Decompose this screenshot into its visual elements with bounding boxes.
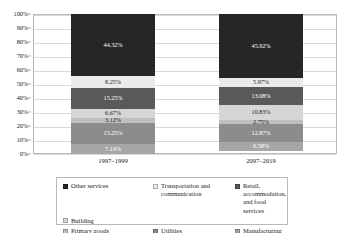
legend-swatch-icon — [153, 229, 158, 233]
y-axis-tick-mark — [28, 140, 31, 141]
bar-segment: 8.25% — [71, 76, 155, 88]
bar-segment-value-label: 15.25% — [104, 130, 123, 136]
y-axis-tick-label: 50% — [17, 81, 28, 87]
legend-swatch-icon — [63, 184, 68, 189]
bar-segment-value-label: 5.97% — [253, 79, 269, 85]
bar-segment: 15.25% — [71, 123, 155, 144]
bar-segment: 44.32% — [71, 14, 155, 76]
x-axis-label-1: 2097–2019 — [219, 156, 303, 165]
y-axis-tick-mark — [28, 28, 31, 29]
legend-item-label: Retail, accommodation, and food services — [243, 182, 286, 215]
y-axis-tick-label: 70% — [17, 53, 28, 59]
bar-segment-value-label: 45.92% — [252, 43, 271, 49]
gridline — [34, 154, 336, 155]
y-axis-tick-label: 100% — [14, 11, 28, 17]
legend-spacer — [153, 217, 233, 225]
legend-item[interactable]: Building — [63, 217, 151, 225]
y-axis-tick-mark — [28, 56, 31, 57]
x-axis-label-0: 1997–1999 — [71, 156, 155, 165]
bar-segment-value-label: 6.58% — [253, 143, 269, 149]
bar-segment-value-label: 15.25% — [104, 95, 123, 101]
y-axis-tick-label: 60% — [17, 67, 28, 73]
x-axis-labels: 1997–1999 2097–2019 — [33, 156, 337, 170]
legend-item[interactable]: Primary goods — [63, 227, 151, 233]
bar-segment: 45.92% — [219, 14, 303, 78]
legend-item[interactable]: Manufacturing — [235, 227, 286, 233]
legend-item[interactable]: Retail, accommodation, and food services — [235, 182, 286, 215]
y-axis-tick-label: 30% — [17, 109, 28, 115]
bar-segment-value-label: 10.83% — [252, 109, 271, 115]
bar-segment-value-label: 12.87% — [252, 130, 271, 136]
bar-segment: 12.87% — [219, 124, 303, 142]
legend-item[interactable]: Transportation and communication — [153, 182, 233, 215]
legend-item[interactable]: Other services — [63, 182, 151, 215]
bar-segment-value-label: 8.25% — [105, 79, 121, 85]
bar-group: 44.32%8.25%15.25%6.67%3.12%15.25%7.14% — [71, 14, 155, 154]
bar-segment-value-label: 7.14% — [105, 146, 121, 152]
legend-item[interactable]: Utilities — [153, 227, 233, 233]
y-axis-tick-label: 0% — [20, 151, 28, 157]
y-axis-tick-label: 40% — [17, 95, 28, 101]
bars-layer: 44.32%8.25%15.25%6.67%3.12%15.25%7.14%45… — [33, 14, 337, 154]
y-axis-tick-mark — [28, 126, 31, 127]
y-axis: 0%10%20%30%40%50%60%70%80%90%100% — [0, 14, 31, 154]
legend-item-label: Manufacturing — [243, 227, 282, 233]
y-axis-tick-mark — [28, 84, 31, 85]
legend-swatch-icon — [153, 184, 158, 189]
y-axis-tick-label: 80% — [17, 39, 28, 45]
bar-segment-value-label: 13.08% — [252, 93, 271, 99]
bar-segment: 7.14% — [71, 144, 155, 154]
legend: Other servicesTransportation and communi… — [56, 177, 288, 225]
bar-segment: 6.58% — [219, 142, 303, 151]
y-axis-tick-mark — [28, 70, 31, 71]
y-axis-tick-mark — [28, 14, 31, 15]
y-axis-tick-label: 90% — [17, 25, 28, 31]
legend-swatch-icon — [235, 184, 240, 189]
legend-item-label: Building — [71, 217, 94, 225]
bar-segment-value-label: 44.32% — [104, 42, 123, 48]
bar-segment: 15.25% — [71, 88, 155, 109]
legend-swatch-icon — [63, 218, 68, 223]
bar-segment: 13.08% — [219, 87, 303, 105]
stacked-bar-chart: 0%10%20%30%40%50%60%70%80%90%100% 44.32%… — [0, 0, 346, 233]
bar-segment: 5.97% — [219, 78, 303, 86]
legend-spacer — [235, 217, 286, 225]
legend-item-label: Other services — [71, 182, 108, 190]
legend-item-label: Utilities — [161, 227, 182, 233]
y-axis-tick-mark — [28, 154, 31, 155]
legend-item-label: Transportation and communication — [161, 182, 233, 198]
bar-group: 45.92%5.97%13.08%10.83%2.75%12.87%6.58% — [219, 14, 303, 154]
y-axis-tick-mark — [28, 98, 31, 99]
bar-segment-value-label: 6.67% — [105, 110, 121, 116]
y-axis-tick-mark — [28, 112, 31, 113]
legend-grid: Other servicesTransportation and communi… — [63, 182, 282, 233]
y-axis-tick-mark — [28, 42, 31, 43]
legend-item-label: Primary goods — [71, 227, 109, 233]
bar-segment: 10.83% — [219, 105, 303, 120]
legend-swatch-icon — [235, 229, 240, 233]
y-axis-tick-label: 20% — [17, 123, 28, 129]
y-axis-tick-label: 10% — [17, 137, 28, 143]
bar-segment: 6.67% — [71, 109, 155, 118]
legend-swatch-icon — [63, 229, 68, 233]
